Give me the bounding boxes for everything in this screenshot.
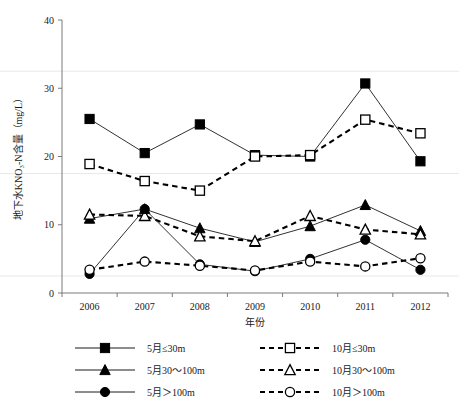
y-tick-label: 30 [44,83,54,94]
x-tick-label: 2010 [300,301,320,312]
data-point [361,235,370,244]
legend-label: 10月30～100m [332,365,395,376]
line-chart: 0102030402006200720082009201020112012 年份… [0,0,459,407]
series-6 [85,254,425,275]
chart-figure: 0102030402006200720082009201020112012 年份… [0,0,459,407]
legend-entry-2[interactable]: 10月≤30m [260,343,375,354]
data-point [305,221,315,231]
legend-entry-4[interactable]: 10月30～100m [260,365,395,376]
data-point [140,204,149,213]
series-line [90,83,421,161]
legend-marker [285,365,295,375]
data-point [85,114,94,123]
data-point [306,151,315,160]
data-point [140,176,149,185]
data-point [306,257,315,266]
data-series [84,79,425,279]
data-point [140,148,149,157]
series-2 [85,115,425,195]
data-point [85,265,94,274]
data-point [416,129,425,138]
data-point [360,200,370,210]
data-point [250,152,259,161]
series-4 [84,209,425,246]
legend-entry-1[interactable]: 5月≤30m [75,343,185,354]
x-tick-label: 2008 [190,301,210,312]
y-tick-label: 10 [44,219,54,230]
y-tick-label: 0 [49,288,54,299]
legend-marker [100,387,109,396]
legend-entry-3[interactable]: 5月30～100m [75,365,205,376]
legend-label: 5月＞100m [147,387,195,398]
data-point [195,120,204,129]
legend-marker [285,343,294,352]
data-point [416,157,425,166]
legend-label: 10月≤30m [332,343,375,354]
legend-label: 10月＞100m [332,387,385,398]
data-point [140,257,149,266]
legend-label: 5月30～100m [147,365,205,376]
legend-entry-5[interactable]: 5月＞100m [75,387,195,398]
data-point [416,254,425,263]
y-tick-label: 40 [44,15,54,26]
legend-entry-6[interactable]: 10月＞100m [260,387,385,398]
legend-label: 5月≤30m [147,343,185,354]
x-tick-label: 2011 [355,301,375,312]
x-axis-title: 年份 [245,316,265,328]
x-tick-label: 2006 [80,301,100,312]
data-point [250,266,259,275]
x-tick-label: 2009 [245,301,265,312]
data-point [361,262,370,271]
legend-marker [285,387,294,396]
data-point [416,265,425,274]
data-point [361,79,370,88]
chart-legend: 5月≤30m10月≤30m5月30～100m10月30～100m5月＞100m1… [75,343,395,398]
x-tick-label: 2007 [135,301,155,312]
legend-marker [100,343,109,352]
y-axis-title: 地下水KNO₃-N含量（mg/L） [12,93,24,220]
data-point [85,159,94,168]
grid-lines [0,71,459,276]
x-tick-label: 2012 [410,301,430,312]
y-tick-label: 20 [44,151,54,162]
data-point [305,210,315,220]
data-point [361,115,370,124]
data-point [195,261,204,270]
data-point [195,186,204,195]
